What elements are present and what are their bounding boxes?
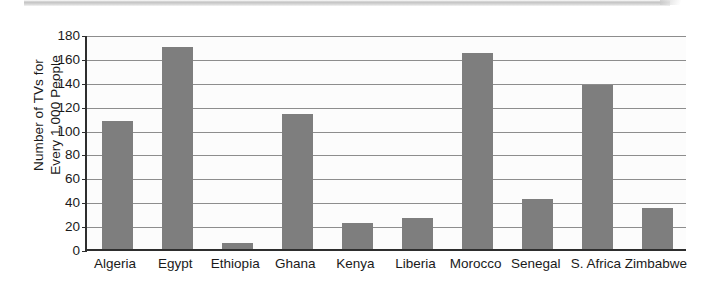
x-axis-category-label: Ethiopia <box>211 254 260 274</box>
y-axis-tick-label: 0 <box>72 244 80 258</box>
bar-series <box>87 36 686 249</box>
x-axis-category-label: Kenya <box>336 254 374 274</box>
x-axis-category-label: Liberia <box>395 254 436 274</box>
y-axis-tick-label: 20 <box>65 220 80 234</box>
bar-senegal <box>522 199 553 249</box>
bar-zimbabwe <box>642 208 673 249</box>
x-axis-category-labels: AlgeriaEgyptEthiopiaGhanaKenyaLiberiaMor… <box>85 254 686 278</box>
y-axis-tick-label: 120 <box>57 101 80 115</box>
x-axis-category-label: S. Africa <box>571 254 621 274</box>
y-axis-tick-label: 140 <box>57 77 80 91</box>
x-axis-category-label: Algeria <box>94 254 136 274</box>
x-axis-category-label: Ghana <box>275 254 316 274</box>
plot-area <box>85 36 686 251</box>
y-axis-tick-label: 60 <box>65 173 80 187</box>
y-axis-tick-label: 80 <box>65 149 80 163</box>
x-axis-category-label: Morocco <box>450 254 502 274</box>
bar-egypt <box>162 47 193 249</box>
y-axis-tick-label: 160 <box>57 53 80 67</box>
bar-algeria <box>102 121 133 249</box>
bar-chart-figure: Number of TVs for Every 1,000 People 020… <box>0 0 723 294</box>
x-axis-category-label: Egypt <box>158 254 193 274</box>
x-axis-category-label: Zimbabwe <box>625 254 687 274</box>
bar-ghana <box>282 114 313 249</box>
y-axis-tick-label: 180 <box>57 29 80 43</box>
y-axis-tick-mark <box>82 251 87 252</box>
bar-kenya <box>342 223 373 249</box>
bar-ethiopia <box>222 243 253 249</box>
bar-morocco <box>462 53 493 249</box>
bar-liberia <box>402 218 433 249</box>
y-axis-tick-labels: 020406080100120140160180 <box>44 36 80 251</box>
bar-s-africa <box>582 85 613 249</box>
x-axis-category-label: Senegal <box>511 254 561 274</box>
y-axis-tick-label: 100 <box>57 125 80 139</box>
y-axis-tick-label: 40 <box>65 196 80 210</box>
